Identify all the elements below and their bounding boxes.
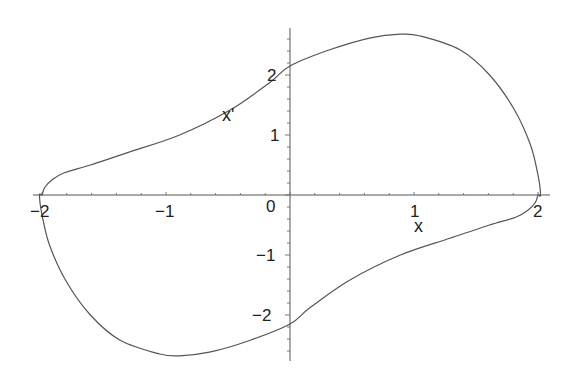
x-tick-label-neg1: −1 [155, 202, 174, 221]
x-tick-label-0: 0 [266, 197, 275, 216]
phase-plot: −2 −1 0 1 2 2 1 −1 −2 x' x [0, 0, 576, 379]
y-tick-label-neg1: −1 [256, 246, 275, 265]
x-tick-label-2: 2 [533, 202, 542, 221]
y-tick-label-neg2: −2 [252, 306, 271, 325]
x-axis-label: x [414, 216, 423, 236]
y-axis-label: x' [222, 105, 234, 125]
x-tick-label-neg2: −2 [30, 202, 49, 221]
y-tick-label-1: 1 [270, 126, 279, 145]
axes [33, 28, 550, 361]
y-tick-label-2: 2 [267, 66, 276, 85]
